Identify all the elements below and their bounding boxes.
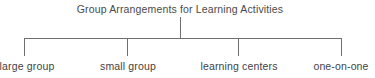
node-label-learning-centers: learning centers — [200, 60, 277, 73]
branch-stem-small-group — [127, 38, 128, 56]
horizontal-connector-bar — [24, 38, 342, 39]
node-label-small-group: small group — [100, 60, 156, 73]
node-label-large-group: large group — [0, 60, 54, 73]
root-connector-stem — [180, 17, 181, 39]
branch-stem-one-on-one — [341, 38, 342, 56]
branch-stem-large-group — [24, 38, 25, 56]
branch-stem-learning-centers — [238, 38, 239, 56]
node-label-one-on-one: one-on-one — [313, 60, 368, 73]
diagram-title: Group Arrangements for Learning Activiti… — [0, 3, 360, 16]
hierarchy-diagram: Group Arrangements for Learning Activiti… — [0, 0, 375, 78]
